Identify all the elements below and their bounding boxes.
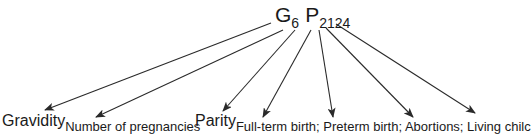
arrow-living-child: [336, 24, 475, 113]
obstetric-formula: G6P2124: [275, 4, 350, 25]
parity-symbol: P: [305, 3, 319, 26]
gravidity-value: 6: [291, 15, 299, 31]
gravidity-symbol: G: [275, 3, 291, 26]
gravidity-label-main: Gravidity: [2, 112, 65, 129]
arrow-parity: [223, 30, 295, 111]
arrow-gravidity: [45, 23, 271, 110]
parity-label-sub: Full-term birth; Preterm birth; Abortion…: [236, 119, 531, 134]
arrow-number-of-pregnancies: [96, 30, 283, 117]
arrow-full-term-birth: [263, 30, 311, 117]
gravidity-label-sub: Number of pregnancies: [65, 119, 200, 134]
arrow-preterm-birth: [319, 30, 333, 117]
parity-value: 2124: [319, 15, 350, 31]
gravidity-label: GravidityNumber of pregnancies: [2, 113, 200, 129]
arrow-abortions: [326, 28, 413, 117]
parity-label-main: Parity: [195, 112, 236, 129]
parity-label: ParityFull-term birth; Preterm birth; Ab…: [195, 113, 531, 129]
